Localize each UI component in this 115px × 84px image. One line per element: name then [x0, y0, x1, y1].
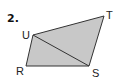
- vertex-label-r: R: [16, 65, 24, 77]
- quadrilateral-rtsu: [26, 16, 104, 66]
- vertex-label-u: U: [22, 29, 30, 41]
- quadrilateral-diagram: 2. U T R S: [0, 0, 115, 84]
- vertex-label-t: T: [106, 9, 113, 21]
- problem-number: 2.: [7, 12, 19, 25]
- vertex-label-s: S: [92, 67, 99, 79]
